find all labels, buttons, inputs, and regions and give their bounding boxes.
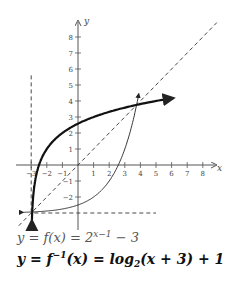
y-tick-label: 2 (69, 130, 73, 138)
curve-f (23, 94, 138, 213)
y-tick-label: 1 (69, 146, 73, 154)
x-tick-label: 5 (154, 170, 158, 178)
curve-f-inverse (32, 98, 174, 220)
x-tick-label: 4 (138, 170, 143, 178)
equation-f: y = f(x) = 2x−1 − 3 (17, 229, 139, 245)
y-tick-label: 3 (69, 114, 73, 122)
y-tick-label: 7 (69, 50, 73, 58)
x-tick-label: 2 (107, 170, 111, 178)
x-tick-label: 1 (91, 170, 95, 178)
x-tick-label: 3 (123, 170, 127, 178)
y-tick-label: 6 (69, 66, 74, 74)
equation-f-inverse: y = f−1(x) = log2(x + 3) + 1 (17, 250, 224, 269)
x-tick-label: −2 (42, 170, 52, 178)
y-tick-label: 5 (69, 82, 73, 90)
x-tick-label: 6 (169, 170, 174, 178)
x-tick-label: 8 (201, 170, 205, 178)
x-axis-label: x (217, 163, 222, 173)
identity-line-dashed (19, 23, 217, 226)
x-tick-label: 7 (185, 170, 189, 178)
y-tick-label: −2 (63, 194, 73, 202)
y-tick-label: 4 (69, 98, 74, 106)
y-axis-label: y (83, 16, 90, 26)
y-tick-label: 8 (69, 34, 73, 42)
